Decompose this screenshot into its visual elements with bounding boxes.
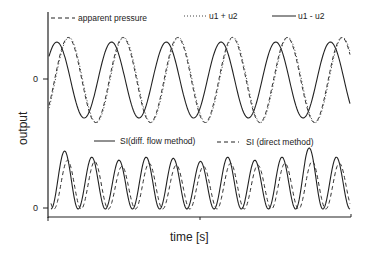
legend-label-si-direct: SI (direct method) xyxy=(246,137,314,147)
series-layer xyxy=(49,37,350,209)
legend-label-si-diff-flow: SI(diff. flow method) xyxy=(120,136,196,146)
x-axis-label: time [s] xyxy=(170,230,209,244)
y-axis-label: output xyxy=(16,111,30,145)
series-line-bottom-si-diff-flow-method xyxy=(51,148,350,209)
legend-label-u1-minus-u2: u1 - u2 xyxy=(298,11,325,21)
series-line-top-u1-u2 xyxy=(49,42,350,118)
legend-label-apparent-pressure: apparent pressure xyxy=(78,13,147,23)
legend-label-u1-plus-u2: u1 + u2 xyxy=(209,11,238,21)
y-tick-label-zero-bottom: 0 xyxy=(33,203,38,213)
y-tick-label-zero-top: 0 xyxy=(33,74,38,84)
chart: 0 0 output time [s] apparent pressure u1… xyxy=(0,0,368,253)
